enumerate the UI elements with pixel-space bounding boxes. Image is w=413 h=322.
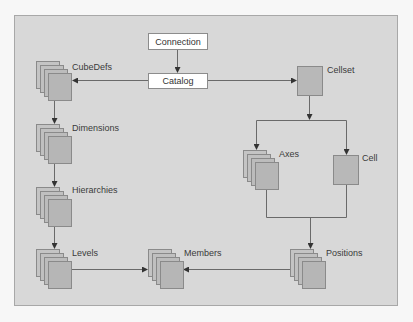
node-catalog: Catalog xyxy=(148,73,208,89)
node-cellset xyxy=(297,66,323,96)
node-cell-label: Cell xyxy=(362,153,378,163)
node-members-label: Members xyxy=(184,248,222,258)
collection-layer xyxy=(255,162,279,190)
node-catalog-label: Catalog xyxy=(162,76,193,86)
collection-layer xyxy=(302,261,326,289)
node-axes xyxy=(243,150,279,190)
node-dimensions xyxy=(36,124,72,164)
node-levels-label: Levels xyxy=(72,248,98,258)
node-cellset-label: Cellset xyxy=(327,65,355,75)
node-axes-label: Axes xyxy=(279,149,299,159)
node-cubedefs-label: CubeDefs xyxy=(72,62,112,72)
node-dimensions-label: Dimensions xyxy=(72,123,119,133)
collection-layer xyxy=(160,261,184,289)
node-positions xyxy=(290,249,326,289)
node-connection-label: Connection xyxy=(155,37,201,47)
node-levels xyxy=(36,249,72,289)
node-hierarchies xyxy=(36,187,72,227)
diagram-canvas: Connection Catalog CubeDefs Dimensions H… xyxy=(0,0,413,322)
node-cubedefs xyxy=(36,61,72,101)
node-hierarchies-label: Hierarchies xyxy=(72,185,118,195)
collection-layer xyxy=(48,199,72,227)
node-members xyxy=(148,249,184,289)
node-connection: Connection xyxy=(148,33,208,50)
node-cell xyxy=(333,155,359,185)
node-positions-label: Positions xyxy=(326,248,363,258)
collection-layer xyxy=(48,73,72,101)
collection-layer xyxy=(48,261,72,289)
collection-layer xyxy=(48,136,72,164)
